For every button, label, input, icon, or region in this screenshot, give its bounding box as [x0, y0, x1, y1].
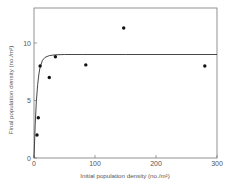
- x-axis-ticks: 0100200300: [32, 155, 223, 167]
- x-axis-label: Initial population density (no./m²): [80, 172, 169, 179]
- data-points: [35, 26, 206, 136]
- data-point: [35, 133, 38, 136]
- fitted-curve: [34, 55, 217, 159]
- y-axis-label: Final population density (no./m²): [7, 46, 14, 134]
- x-tick-label: 200: [150, 160, 162, 167]
- data-point: [122, 26, 125, 29]
- x-tick-label: 300: [211, 160, 223, 167]
- data-point: [38, 64, 41, 67]
- y-tick-label: 0: [27, 155, 31, 162]
- chart: 0100200300 0510 Initial population densi…: [0, 0, 232, 186]
- data-point: [54, 55, 57, 58]
- data-point: [48, 76, 51, 79]
- x-tick-label: 100: [89, 160, 101, 167]
- y-tick-label: 5: [27, 97, 31, 104]
- data-point: [203, 64, 206, 67]
- data-point: [37, 116, 40, 119]
- y-tick-label: 10: [23, 40, 31, 47]
- x-tick-label: 0: [32, 160, 36, 167]
- data-point: [84, 63, 87, 66]
- plot-frame: [34, 8, 217, 158]
